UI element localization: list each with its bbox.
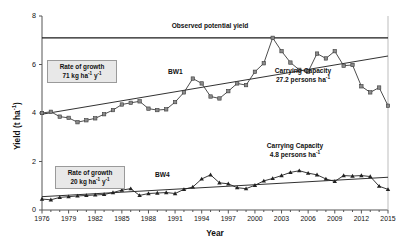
data-point	[111, 108, 114, 111]
data-point	[191, 77, 194, 80]
data-point	[289, 61, 292, 64]
data-point	[386, 104, 389, 107]
data-point	[138, 100, 141, 103]
data-point	[235, 82, 238, 85]
x-tick-label: 2012	[346, 215, 376, 222]
data-point	[227, 89, 230, 92]
y-tick-label: 0	[22, 205, 36, 214]
rate-upper-line2: 71 kg ha-1 y-1	[52, 72, 112, 81]
y-tick-label: 2	[22, 157, 36, 166]
carrying-capacity-lower-annotation: Carrying Capacity 4.8 persons ha-1	[246, 142, 344, 160]
x-tick-label: 1982	[80, 215, 110, 222]
data-point	[173, 100, 176, 103]
data-point	[209, 95, 212, 98]
data-point	[280, 49, 283, 52]
x-tick-label: 1976	[27, 215, 57, 222]
data-point	[129, 101, 132, 104]
x-axis-title: Year	[185, 228, 245, 238]
data-point	[369, 91, 372, 94]
data-point	[271, 36, 274, 39]
data-point	[94, 117, 97, 120]
x-tick-label: 2009	[320, 215, 350, 222]
data-point	[315, 52, 318, 55]
x-tick-label: 2015	[373, 215, 399, 222]
chart-plot-area	[0, 0, 399, 249]
cc-upper-line2: 27.2 persons ha-1	[254, 76, 352, 85]
observed-potential-yield-label: Observed potential yield	[150, 22, 270, 31]
data-point	[208, 173, 212, 177]
data-point	[377, 86, 380, 89]
rate-upper-line1: Rate of growth	[52, 63, 112, 72]
chart-figure: 02468 1976197919821985198819911994199720…	[0, 0, 399, 249]
data-point	[156, 108, 159, 111]
x-tick-label: 1985	[107, 215, 137, 222]
y-tick-label: 8	[22, 11, 36, 20]
data-point	[58, 115, 61, 118]
rate-lower-line2: 20 kg ha-1 y-1	[60, 178, 120, 187]
carrying-capacity-upper-annotation: Carrying Capacity 27.2 persons ha-1	[254, 67, 352, 85]
rate-of-growth-upper-annotation: Rate of growth 71 kg ha-1 y-1	[47, 60, 117, 83]
data-point	[49, 110, 52, 113]
data-point	[333, 49, 336, 52]
data-point	[262, 62, 265, 65]
cc-upper-line1: Carrying Capacity	[254, 67, 352, 76]
data-point	[102, 113, 105, 116]
rate-lower-line1: Rate of growth	[60, 169, 120, 178]
series-label-bw1: BW1	[168, 68, 183, 75]
cc-lower-line2: 4.8 persons ha-1	[246, 151, 344, 160]
data-point	[297, 168, 301, 172]
data-point	[218, 97, 221, 100]
data-point	[244, 83, 247, 86]
y-tick-label: 6	[22, 60, 36, 69]
x-tick-label: 1997	[213, 215, 243, 222]
y-tick-label: 4	[22, 108, 36, 117]
data-point	[85, 119, 88, 122]
y-axis-title: Yield (t ha-1)	[12, 102, 22, 150]
x-tick-label: 1988	[133, 215, 163, 222]
x-tick-label: 1991	[160, 215, 190, 222]
x-tick-label: 2006	[293, 215, 323, 222]
data-point	[324, 57, 327, 60]
data-point	[165, 108, 168, 111]
data-point	[67, 116, 70, 119]
data-point	[120, 103, 123, 106]
x-tick-label: 2003	[267, 215, 297, 222]
data-point	[200, 82, 203, 85]
x-tick-label: 1994	[187, 215, 217, 222]
x-tick-label: 1979	[54, 215, 84, 222]
data-point	[182, 91, 185, 94]
x-tick-label: 2000	[240, 215, 270, 222]
data-point	[360, 85, 363, 88]
series-label-bw4: BW4	[155, 171, 170, 178]
data-point	[147, 107, 150, 110]
data-point	[40, 111, 43, 114]
cc-lower-line1: Carrying Capacity	[246, 142, 344, 151]
x-axis-ticks	[42, 210, 388, 214]
data-point	[76, 121, 79, 124]
rate-of-growth-lower-annotation: Rate of growth 20 kg ha-1 y-1	[55, 166, 125, 189]
data-point	[128, 186, 132, 190]
